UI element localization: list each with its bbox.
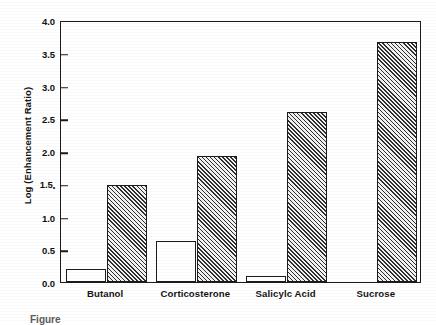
y-axis-tick-labels: 0.00.51.01.5•2.02.53.03.54.0 bbox=[22, 0, 55, 321]
bar-hatched-salicylc-acid bbox=[287, 112, 327, 282]
plot-inner bbox=[61, 22, 420, 282]
scan-artifact-mark: • bbox=[53, 184, 55, 191]
y-tick-label-3-0: 3.0 bbox=[25, 81, 55, 92]
y-tick-label-0-5: 0.5 bbox=[25, 245, 55, 256]
x-tick-label-salicylc-acid: Salicylc Acid bbox=[256, 288, 316, 299]
bar-group bbox=[156, 22, 237, 282]
y-tick-label-2-5: 2.5 bbox=[25, 114, 55, 125]
bar-group bbox=[246, 22, 327, 282]
bar-group bbox=[336, 22, 417, 282]
bar-open-salicylc-acid bbox=[246, 276, 286, 282]
plot-area bbox=[60, 21, 421, 283]
figure-caption: Figure bbox=[30, 314, 61, 325]
x-axis-tick-labels: ButanolCorticosteroneSalicylc AcidSucros… bbox=[60, 288, 421, 310]
y-tick-label-4-0: 4.0 bbox=[25, 16, 55, 27]
x-tick-label-corticosterone: Corticosterone bbox=[161, 288, 231, 299]
bar-open-butanol bbox=[66, 269, 106, 282]
y-tick-label-2-0: 2.0 bbox=[25, 147, 55, 158]
bar-group bbox=[66, 22, 147, 282]
y-tick-label-3-5: 3.5 bbox=[25, 48, 55, 59]
y-tick-label-0-0: 0.0 bbox=[25, 278, 55, 289]
x-tick-label-butanol: Butanol bbox=[87, 288, 123, 299]
y-tick-label-1-0: 1.0 bbox=[25, 212, 55, 223]
x-tick-label-sucrose: Sucrose bbox=[357, 288, 396, 299]
bar-hatched-corticosterone bbox=[197, 156, 237, 282]
bar-hatched-sucrose bbox=[377, 42, 417, 282]
bar-hatched-butanol bbox=[107, 185, 147, 282]
bar-open-corticosterone bbox=[156, 241, 196, 282]
y-tick-label-1-5: 1.5• bbox=[25, 179, 55, 191]
